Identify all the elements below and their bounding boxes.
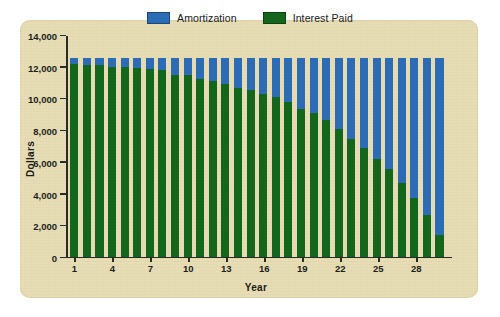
bar-segment-interest-paid — [398, 183, 406, 256]
plot-area: 02,0004,0006,0008,00010,00012,00014,000 — [66, 36, 446, 258]
bar-segment-amortization — [83, 58, 91, 65]
x-tick-mark — [340, 258, 341, 262]
bar-segment-amortization — [158, 58, 166, 70]
stacked-bar — [234, 58, 242, 257]
bar-segment-interest-paid — [108, 67, 116, 257]
stacked-bar — [83, 58, 91, 257]
bar-segment-amortization — [284, 58, 292, 102]
bar-column — [194, 36, 207, 257]
stacked-bar — [322, 58, 330, 257]
x-tick-label: 28 — [411, 263, 422, 274]
bar-segment-amortization — [234, 58, 242, 89]
bar-segment-amortization — [95, 58, 103, 66]
bar-segment-interest-paid — [184, 75, 192, 256]
y-tick-label: 12,000 — [28, 62, 57, 73]
bar-column — [320, 36, 333, 257]
stacked-bar — [272, 58, 280, 257]
y-tick-label: 0 — [52, 253, 57, 264]
bar-segment-amortization — [247, 58, 255, 91]
stacked-bar — [398, 58, 406, 257]
stacked-bar — [423, 58, 431, 257]
stacked-bar — [373, 58, 381, 257]
stacked-bar — [347, 58, 355, 257]
stacked-bar — [221, 58, 229, 257]
bar-column — [144, 36, 157, 257]
legend-swatch-interest-paid — [263, 12, 286, 24]
bar-segment-amortization — [259, 58, 267, 94]
bar-segment-interest-paid — [221, 84, 229, 257]
x-axis-title: Year — [66, 282, 446, 293]
bar-segment-interest-paid — [385, 169, 393, 256]
stacked-bar — [95, 58, 103, 257]
bar-segment-amortization — [121, 58, 129, 68]
y-tick-label: 8,000 — [33, 126, 57, 137]
bar-column — [244, 36, 257, 257]
bar-segment-interest-paid — [310, 113, 318, 257]
chart-legend: Amortization Interest Paid — [0, 12, 500, 24]
bar-segment-amortization — [184, 58, 192, 76]
bar-column — [370, 36, 383, 257]
bar-segment-amortization — [360, 58, 368, 148]
y-tick-mark — [60, 35, 66, 37]
bar-segment-interest-paid — [70, 64, 78, 257]
chart-page: Amortization Interest Paid Dollars 02,00… — [0, 0, 500, 317]
x-tick-label: 7 — [148, 263, 153, 274]
bar-segment-interest-paid — [322, 120, 330, 257]
stacked-bar — [335, 58, 343, 257]
stacked-bar — [284, 58, 292, 257]
y-tick-mark — [60, 98, 66, 100]
stacked-bar — [70, 58, 78, 257]
bar-column — [345, 36, 358, 257]
bar-column — [219, 36, 232, 257]
bar-segment-amortization — [335, 58, 343, 129]
bar-column — [81, 36, 94, 257]
bar-column — [421, 36, 434, 257]
bar-column — [358, 36, 371, 257]
legend-label-amortization: Amortization — [177, 12, 237, 24]
stacked-bar — [121, 58, 129, 257]
legend-item-amortization: Amortization — [147, 12, 237, 24]
bar-segment-interest-paid — [171, 75, 179, 257]
bar-segment-amortization — [373, 58, 381, 159]
bar-segment-interest-paid — [272, 97, 280, 257]
x-tick-label: 13 — [221, 263, 232, 274]
x-tick-label: 25 — [373, 263, 384, 274]
stacked-bar — [184, 58, 192, 257]
y-tick-mark — [60, 161, 66, 163]
y-tick-label: 14,000 — [28, 31, 57, 42]
stacked-bar — [410, 58, 418, 257]
stacked-bar — [297, 58, 305, 257]
bar-segment-amortization — [322, 58, 330, 120]
bar-column — [118, 36, 131, 257]
x-tick-mark — [150, 258, 151, 262]
bar-column — [257, 36, 270, 257]
bar-segment-interest-paid — [146, 69, 154, 257]
bar-column — [433, 36, 446, 257]
legend-label-interest-paid: Interest Paid — [293, 12, 353, 24]
bar-segment-interest-paid — [373, 159, 381, 257]
stacked-bar — [435, 58, 443, 257]
x-tick-label: 19 — [297, 263, 308, 274]
bar-segment-amortization — [410, 58, 418, 198]
x-tick-label: 1 — [72, 263, 77, 274]
bar-column — [181, 36, 194, 257]
legend-swatch-amortization — [147, 12, 170, 24]
legend-item-interest-paid: Interest Paid — [263, 12, 353, 24]
y-tick-mark — [60, 130, 66, 132]
bar-segment-interest-paid — [95, 65, 103, 256]
y-tick-label: 6,000 — [33, 157, 57, 168]
bar-segment-amortization — [347, 58, 355, 140]
y-tick-label: 4,000 — [33, 189, 57, 200]
bar-column — [232, 36, 245, 257]
bar-segment-interest-paid — [121, 67, 129, 256]
bar-segment-amortization — [310, 58, 318, 113]
bar-segment-amortization — [385, 58, 393, 170]
x-tick-label: 10 — [183, 263, 194, 274]
stacked-bar — [171, 58, 179, 257]
y-tick-mark — [60, 66, 66, 68]
bar-segment-amortization — [146, 58, 154, 69]
bar-column — [156, 36, 169, 257]
bar-column — [169, 36, 182, 257]
y-tick-mark — [60, 193, 66, 195]
x-tick-label: 22 — [335, 263, 346, 274]
